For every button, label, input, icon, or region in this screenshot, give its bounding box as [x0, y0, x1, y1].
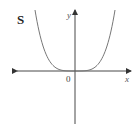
- panel-label: S: [17, 12, 24, 27]
- x-axis-label: x: [124, 74, 129, 84]
- y-axis-label: y: [66, 10, 71, 20]
- origin-label: 0: [66, 74, 71, 84]
- function-graph: S y x 0: [0, 0, 138, 128]
